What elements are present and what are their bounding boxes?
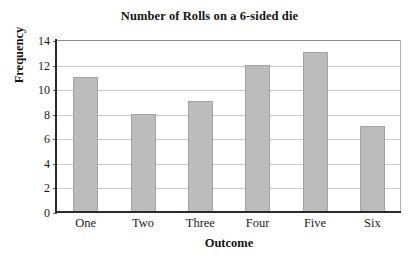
y-tick-label: 6 — [44, 132, 50, 147]
plot-area: 02468101214 — [57, 40, 401, 212]
bar — [73, 77, 98, 212]
gridline — [57, 66, 400, 67]
bar — [131, 114, 156, 212]
y-tick-mark — [53, 213, 57, 214]
y-tick-label: 12 — [38, 58, 50, 73]
y-tick-label: 2 — [44, 181, 50, 196]
y-tick-label: 8 — [44, 107, 50, 122]
y-tick-label: 0 — [44, 206, 50, 221]
gridline — [57, 164, 400, 165]
chart-title: Number of Rolls on a 6-sided die — [0, 9, 419, 24]
y-axis-line — [55, 39, 57, 213]
bar-chart-figure: Number of Rolls on a 6-sided die Frequen… — [0, 0, 419, 261]
y-axis-title: Frequency — [12, 0, 28, 110]
x-tick-label: Three — [186, 216, 215, 231]
x-tick-label: Five — [304, 216, 326, 231]
gridline — [57, 139, 400, 140]
bar — [303, 52, 328, 212]
gridline — [57, 188, 400, 189]
x-tick-label: Six — [364, 216, 381, 231]
x-tick-label: One — [75, 216, 96, 231]
gridline — [57, 90, 400, 91]
x-axis-line — [55, 211, 401, 213]
x-tick-label: Two — [132, 216, 154, 231]
y-tick-label: 4 — [44, 156, 50, 171]
x-tick-label: Four — [246, 216, 270, 231]
y-tick-label: 14 — [38, 34, 50, 49]
gridline — [57, 115, 400, 116]
bar — [360, 126, 385, 212]
bar — [245, 65, 270, 212]
x-axis-title: Outcome — [57, 236, 401, 251]
y-tick-label: 10 — [38, 83, 50, 98]
bar — [188, 101, 213, 212]
